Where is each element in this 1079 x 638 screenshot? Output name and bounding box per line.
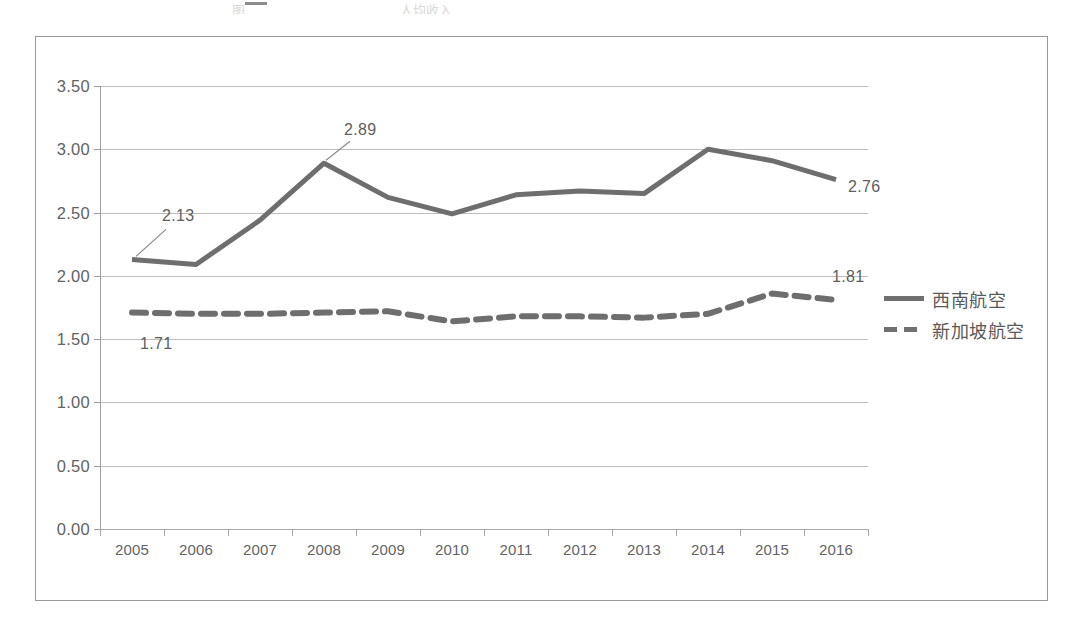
x-tick-label-2009: 2009 [371, 541, 405, 558]
y-tick-label-1.00: 1.00 [57, 393, 90, 412]
x-tick-mark-11 [804, 529, 805, 536]
y-tick-label-2.50: 2.50 [57, 203, 90, 222]
legend-line-icon-solid [884, 296, 924, 301]
legend-line-icon-dashed [884, 327, 924, 332]
gridline-1.50 [100, 339, 868, 340]
y-axis-labels: 0.000.501.001.502.002.503.003.50 [0, 0, 90, 638]
y-tick-label-2.00: 2.00 [57, 266, 90, 285]
y-tick-label-0.50: 0.50 [57, 456, 90, 475]
y-axis-line [100, 86, 101, 529]
x-tick-label-2010: 2010 [435, 541, 469, 558]
x-tick-mark-9 [676, 529, 677, 536]
x-tick-mark-5 [420, 529, 421, 536]
legend-item-1[interactable]: 新加坡航空 [884, 314, 1034, 345]
x-tick-label-2008: 2008 [307, 541, 341, 558]
clipped-title-text: 图 [232, 0, 245, 14]
data-label-2016-singapore: 1.81 [832, 268, 864, 286]
x-tick-mark-7 [548, 529, 549, 536]
data-label-2008-southwest: 2.89 [344, 121, 376, 139]
y-tick-mark-0.50 [94, 466, 100, 467]
y-tick-mark-2.50 [94, 213, 100, 214]
clipped-title-artifact: 图 人均收入 [0, 0, 1079, 14]
y-tick-mark-3.00 [94, 149, 100, 150]
y-tick-mark-1.50 [94, 339, 100, 340]
gridline-1.00 [100, 402, 868, 403]
legend: 西南航空 新加坡航空 [884, 283, 1034, 345]
x-tick-label-2007: 2007 [243, 541, 277, 558]
y-tick-label-0.00: 0.00 [57, 520, 90, 539]
y-tick-mark-1.00 [94, 402, 100, 403]
y-tick-label-1.50: 1.50 [57, 330, 90, 349]
x-tick-mark-10 [740, 529, 741, 536]
x-tick-label-2006: 2006 [179, 541, 213, 558]
y-tick-mark-3.50 [94, 86, 100, 87]
gridline-0.50 [100, 466, 868, 467]
legend-item-0[interactable]: 西南航空 [884, 283, 1034, 314]
x-tick-mark-0 [100, 529, 101, 536]
x-tick-label-2005: 2005 [115, 541, 149, 558]
x-tick-mark-12 [868, 529, 869, 536]
legend-label-0: 西南航空 [932, 286, 1006, 312]
x-tick-label-2016: 2016 [819, 541, 853, 558]
x-tick-mark-4 [356, 529, 357, 536]
gridline-2.00 [100, 276, 868, 277]
x-tick-label-2015: 2015 [755, 541, 789, 558]
x-tick-mark-1 [164, 529, 165, 536]
y-tick-label-3.00: 3.00 [57, 140, 90, 159]
data-label-2005-southwest: 2.13 [162, 207, 194, 225]
x-tick-mark-8 [612, 529, 613, 536]
gridline-3.50 [100, 86, 868, 87]
clipped-subtitle-text: 人均收入 [400, 0, 452, 14]
x-tick-label-2011: 2011 [499, 541, 532, 558]
x-tick-mark-2 [228, 529, 229, 536]
x-tick-label-2013: 2013 [627, 541, 661, 558]
x-tick-mark-3 [292, 529, 293, 536]
y-tick-mark-2.00 [94, 276, 100, 277]
data-label-2005-singapore: 1.71 [140, 335, 172, 353]
gridline-3.00 [100, 149, 868, 150]
x-tick-label-2014: 2014 [691, 541, 725, 558]
x-tick-label-2012: 2012 [563, 541, 597, 558]
data-label-2016-southwest: 2.76 [848, 178, 880, 196]
title-underline-artifact [245, 2, 267, 5]
legend-label-1: 新加坡航空 [932, 317, 1025, 343]
gridline-2.50 [100, 213, 868, 214]
y-tick-label-3.50: 3.50 [57, 77, 90, 96]
x-tick-mark-6 [484, 529, 485, 536]
